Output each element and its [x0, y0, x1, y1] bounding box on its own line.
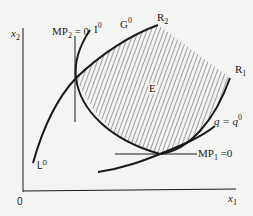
i0-label: I0 — [94, 24, 102, 35]
mp2-label: MP2 = 0 — [52, 26, 89, 37]
x-axis-label: x1 — [228, 193, 237, 204]
l0-label: L0 — [37, 160, 47, 171]
g0-label: G0 — [120, 19, 132, 30]
x-axis — [23, 189, 236, 191]
r1-label: R1 — [235, 64, 246, 75]
mp1-label: MP1 =0 — [198, 148, 232, 159]
region-e-label: E — [148, 83, 157, 94]
q-q0-label: q = q0 — [214, 116, 242, 127]
diagram-canvas — [0, 0, 253, 216]
r2-label: R2 — [157, 12, 168, 23]
origin-label: 0 — [17, 196, 23, 207]
y-axis-label: x2 — [11, 28, 20, 39]
